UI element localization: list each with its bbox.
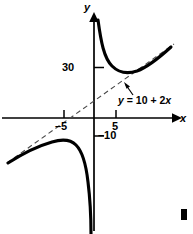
y-tick-label-30: 30 xyxy=(62,62,74,73)
graph-figure: y x 30 –10 –5 5 y = 10 + 2x xyxy=(0,0,193,234)
curve-lower-branch xyxy=(8,140,91,234)
y-axis-ticks xyxy=(94,68,104,137)
asymptote-equation-body: = 10 + 2 xyxy=(124,94,165,106)
y-axis-label: y xyxy=(84,2,90,13)
asymptote-equation-label: y = 10 + 2x xyxy=(118,95,171,106)
x-tick-label-negative-5: –5 xyxy=(55,121,67,132)
x-axis-label: x xyxy=(180,113,186,124)
x-tick-label-5: 5 xyxy=(112,121,118,132)
curve-upper-branch xyxy=(98,20,171,73)
end-of-section-marker xyxy=(181,209,187,220)
graph-plot-area xyxy=(0,0,193,234)
asymptote-equation-x-term: x xyxy=(165,94,171,106)
x-axis xyxy=(2,113,182,123)
